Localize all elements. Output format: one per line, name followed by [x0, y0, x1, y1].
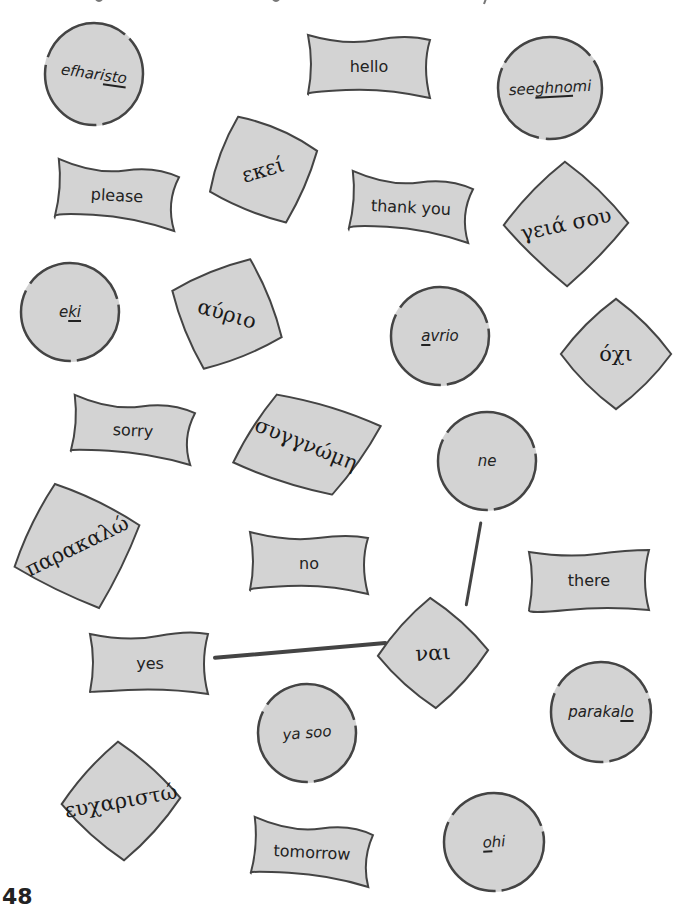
card-text: συγγνώμη — [251, 413, 360, 476]
card-text: sorry — [112, 419, 153, 440]
card-text: ne — [478, 452, 497, 470]
card-text: avrio — [421, 327, 459, 345]
card-geia-sou-greek[interactable]: γειά σου — [501, 159, 631, 289]
card-eki[interactable]: eki — [20, 262, 120, 362]
card-parakalo[interactable]: parakalo — [550, 661, 652, 763]
card-text: please — [90, 184, 143, 206]
card-text: όχι — [599, 342, 633, 366]
card-text: γειά σου — [518, 203, 613, 246]
card-text: yes — [136, 654, 164, 673]
connection-line-ne-nai — [465, 521, 483, 606]
card-thank-you[interactable]: thank you — [346, 169, 475, 245]
page-number: 48 — [2, 884, 33, 909]
card-text: αύριο — [195, 294, 259, 334]
card-text: ya soo — [282, 722, 332, 744]
card-ya-soo[interactable]: ya soo — [257, 683, 357, 783]
card-text: there — [568, 571, 610, 590]
card-text: ναι — [415, 640, 451, 666]
card-ne[interactable]: ne — [437, 411, 537, 511]
card-yes[interactable]: yes — [88, 630, 212, 696]
card-text: εκεί — [239, 153, 287, 188]
card-efcharisto-greek[interactable]: ευχαριστώ — [59, 739, 183, 863]
card-text: eki — [59, 303, 81, 321]
connection-line-yes-nai — [213, 641, 388, 660]
card-text: parakalo — [568, 703, 633, 721]
card-hello[interactable]: hello — [306, 32, 432, 100]
card-avrio-greek[interactable]: αύριο — [170, 257, 285, 372]
card-ohi[interactable]: ohi — [443, 792, 545, 892]
card-there[interactable]: there — [527, 548, 651, 612]
card-please[interactable]: please — [52, 157, 181, 233]
card-nai-greek[interactable]: ναι — [375, 595, 491, 711]
card-text: thank you — [370, 195, 451, 218]
card-avrio[interactable]: avrio — [390, 286, 490, 386]
card-parakalo-greek[interactable]: παρακαλώ — [12, 481, 142, 610]
card-text: παρακαλώ — [21, 511, 132, 582]
card-text: no — [299, 554, 319, 573]
card-tomorrow[interactable]: tomorrow — [248, 815, 375, 889]
card-text: hello — [350, 57, 389, 76]
cropped-heading-fragment — [0, 0, 692, 6]
card-text: efharisto — [60, 60, 128, 87]
card-ekei-greek[interactable]: εκεί — [206, 114, 321, 226]
card-text: ευχαριστώ — [63, 779, 180, 822]
card-text: seeghnomi — [508, 77, 592, 99]
card-syngnomi-greek[interactable]: συγγνώμη — [228, 390, 383, 497]
card-ochi-greek[interactable]: όχι — [558, 296, 674, 412]
card-seeghnomi[interactable]: seeghnomi — [497, 36, 603, 140]
card-no[interactable]: no — [248, 530, 370, 596]
card-text: ohi — [482, 832, 506, 852]
card-text: tomorrow — [273, 841, 351, 864]
card-efharisto[interactable]: efharisto — [44, 22, 144, 126]
card-sorry[interactable]: sorry — [68, 393, 197, 468]
